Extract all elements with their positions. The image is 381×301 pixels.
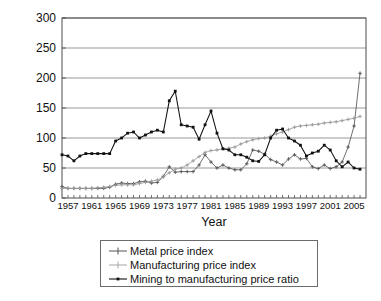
data-point: [174, 90, 177, 93]
data-point: [186, 125, 189, 128]
legend-marker-manufacturing-price-index: [108, 259, 128, 271]
legend-label-mining-to-manufacturing-price-ratio: Mining to manufacturing price ratio: [128, 273, 299, 285]
legend-item-manufacturing-price-index: Manufacturing price index: [101, 258, 317, 272]
legend-item-mining-to-manufacturing-price-ratio: Mining to manufacturing price ratio: [101, 272, 317, 286]
data-point: [61, 153, 64, 156]
data-point: [90, 152, 93, 155]
chart-figure: Price index (1990 = 100) Year 0501001502…: [0, 0, 381, 301]
data-point: [239, 153, 242, 156]
data-point: [335, 159, 338, 162]
data-point: [359, 168, 362, 171]
data-point: [305, 155, 308, 158]
data-point: [67, 155, 70, 158]
data-point: [102, 152, 105, 155]
data-point: [210, 110, 213, 113]
data-point: [132, 131, 135, 134]
legend-label-metal-price-index: Metal price index: [128, 245, 213, 257]
data-point: [150, 131, 153, 134]
data-point: [299, 144, 302, 147]
data-point: [114, 140, 117, 143]
data-point: [192, 126, 195, 129]
data-point: [275, 129, 278, 132]
legend-label-manufacturing-price-index: Manufacturing price index: [128, 259, 256, 271]
chart-legend: Metal price index Manufacturing price in…: [100, 240, 318, 287]
data-point: [347, 161, 350, 164]
data-point: [78, 155, 81, 158]
data-point: [317, 150, 320, 153]
series-line-2: [62, 91, 360, 169]
data-point: [353, 167, 356, 170]
data-point: [228, 149, 231, 152]
data-point: [245, 156, 248, 159]
data-point: [216, 132, 219, 135]
data-point: [156, 129, 159, 132]
data-point: [126, 132, 129, 135]
legend-item-metal-price-index: Metal price index: [101, 244, 317, 258]
data-point: [204, 123, 207, 126]
legend-marker-mining-to-manufacturing-price-ratio: [108, 273, 128, 285]
data-point: [287, 137, 290, 140]
data-point: [168, 99, 171, 102]
data-point: [311, 152, 314, 155]
data-point: [180, 123, 183, 126]
data-point: [281, 128, 284, 131]
data-point: [233, 153, 236, 156]
data-point: [138, 137, 141, 140]
data-point: [222, 147, 225, 150]
data-point: [323, 144, 326, 147]
data-point: [120, 137, 123, 140]
data-point: [293, 140, 296, 143]
data-point: [257, 160, 260, 163]
data-point: [198, 138, 201, 141]
data-point: [84, 152, 87, 155]
data-point: [144, 134, 147, 137]
data-point: [329, 149, 332, 152]
data-point: [251, 159, 254, 162]
data-point: [108, 152, 111, 155]
data-point: [341, 165, 344, 168]
data-point: [162, 131, 165, 134]
series-line-0: [62, 73, 360, 188]
legend-marker-metal-price-index: [108, 245, 128, 257]
data-point: [73, 159, 76, 162]
data-point: [269, 137, 272, 140]
data-point: [96, 152, 99, 155]
data-point: [263, 153, 266, 156]
